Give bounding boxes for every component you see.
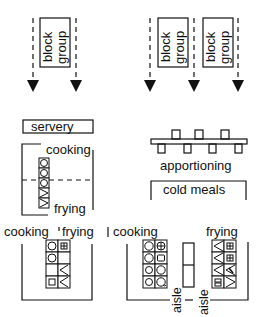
bottom-right-cooking-frying-section: cooking frying	[113, 224, 248, 315]
equipment-grid	[46, 240, 70, 288]
stub	[184, 144, 191, 153]
top-left-block-group-flow: block group	[27, 18, 82, 92]
cooking-label: cooking	[113, 224, 158, 239]
aisle-label: aisle	[170, 287, 184, 313]
servery-label: servery	[31, 119, 74, 134]
stub	[195, 130, 203, 139]
block-label: block	[203, 31, 218, 62]
apportioning-counter	[151, 139, 247, 144]
stub	[235, 144, 242, 153]
top-right-block-group-flow: block group block group	[144, 18, 244, 92]
kitchen-layout-diagram: block group block group block group serv…	[0, 0, 272, 317]
block-label: block	[158, 31, 173, 62]
frying-label: frying	[206, 224, 238, 239]
cooking-equipment-grid	[143, 240, 167, 288]
bottom-left-cooking-frying-section: cooking frying	[4, 224, 108, 300]
frying-equipment-grid	[212, 240, 236, 288]
down-arrow-icon	[70, 80, 82, 92]
down-arrow-icon	[188, 80, 200, 92]
cooking-label: cooking	[4, 224, 49, 239]
down-arrow-icon	[232, 80, 244, 92]
stub	[221, 130, 229, 139]
group-label: group	[217, 31, 232, 64]
down-arrow-icon	[27, 80, 39, 92]
middle-left-servery-section: servery cooking frying	[22, 119, 93, 216]
frying-label: frying	[54, 201, 86, 216]
apportioning-label: apportioning	[160, 158, 232, 173]
group-label: group	[54, 31, 69, 64]
cooking-label: cooking	[46, 142, 91, 157]
frying-label: frying	[62, 224, 94, 239]
down-arrow-icon	[144, 80, 156, 92]
cold-meals-label: cold meals	[163, 182, 226, 197]
aisle-label: aisle	[197, 289, 211, 315]
stub	[172, 130, 180, 139]
stub	[209, 144, 216, 153]
equipment-column	[39, 158, 49, 208]
group-label: group	[172, 31, 187, 64]
middle-right-apportioning-section: apportioning cold meals	[151, 130, 247, 200]
stub	[158, 144, 165, 153]
block-label: block	[40, 31, 55, 62]
